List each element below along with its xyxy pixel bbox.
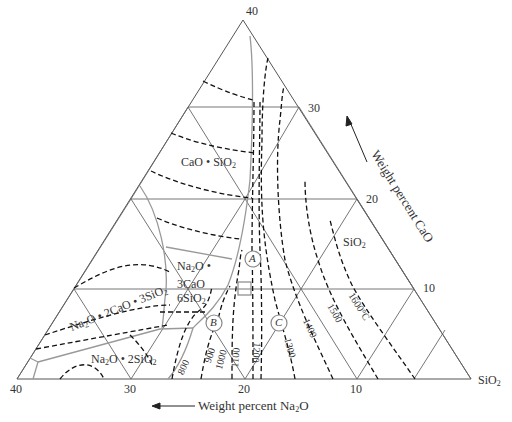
phase-label-na2o-2sio2: Na2O • 2SiO2	[91, 353, 157, 367]
phase-label-sio2: SiO2	[343, 236, 366, 250]
point-b-label: B	[210, 317, 217, 328]
tick-cao-20: 20	[366, 193, 378, 205]
tick-na2o-20: 20	[238, 383, 250, 395]
na2o-axis-arrow	[152, 403, 195, 409]
isotherms	[36, 58, 415, 379]
tick-cao-30: 30	[308, 102, 320, 114]
isotherm-label-1100: 1100	[230, 347, 242, 367]
phase-label-na2o-3cao-6sio2: Na2O • 3CaO 6SiO2	[177, 259, 211, 309]
isotherm-label-1200: 1200	[250, 342, 262, 363]
sio2-corner-label: SiO2	[478, 374, 501, 388]
grid-lines	[17, 107, 471, 379]
point-c-label: C	[275, 317, 282, 328]
tick-cao-10: 10	[423, 282, 435, 294]
phase-label-cao-sio2: CaO • SiO2	[181, 156, 236, 170]
tick-cao-40: 40	[246, 5, 258, 17]
tick-na2o-30: 30	[124, 383, 136, 395]
point-a-label: A	[249, 253, 256, 264]
cao-axis-arrow	[346, 116, 367, 162]
na2o-axis-title: Weight percent Na2O	[198, 399, 309, 414]
tick-na2o-40: 40	[10, 383, 22, 395]
tick-na2o-10: 10	[350, 383, 362, 395]
